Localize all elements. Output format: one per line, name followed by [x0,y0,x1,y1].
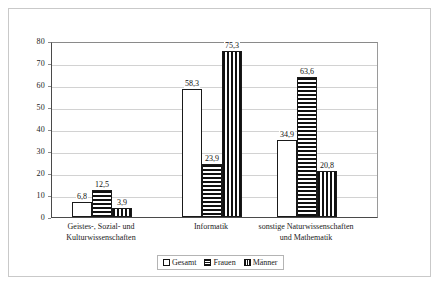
legend-item[interactable]: Männer [244,258,278,267]
category-label-line: Kulturwissenschaften [36,232,166,243]
y-axis-tick-label: 30 [19,148,45,156]
bar-slot: 12,5 [92,43,112,217]
bar[interactable]: 75,3 [222,51,242,217]
y-axis-tick-mark [48,218,51,219]
bar[interactable]: 63,6 [297,77,317,217]
bar-slot: 20,8 [317,43,337,217]
bar-value-label: 20,8 [319,161,335,170]
chart-figure: 01020304050607080 6,812,53,958,323,975,3… [0,0,441,286]
y-axis-tick-label: 50 [19,104,45,112]
bar-group: 34,963,620,8 [277,43,337,217]
bar[interactable]: 12,5 [92,190,112,218]
chart-legend: GesamtFrauenMänner [157,255,284,270]
legend-item-label: Gesamt [172,258,196,267]
y-axis-tick-label: 80 [19,38,45,46]
bar-group: 58,323,975,3 [182,43,242,217]
bar-value-label: 23,9 [204,154,220,163]
bar-value-label: 6,8 [76,192,88,201]
bar-value-label: 34,9 [279,130,295,139]
bar[interactable]: 6,8 [72,202,92,217]
legend-item[interactable]: Frauen [204,258,235,267]
legend-item[interactable]: Gesamt [163,258,196,267]
bar[interactable]: 3,9 [112,208,132,217]
plot-area: 6,812,53,958,323,975,334,963,620,8 [51,42,378,218]
category-label-line: und Mathematik [241,232,371,243]
category-label: sonstige Naturwissenschaftenund Mathemat… [241,221,371,243]
bar[interactable]: 20,8 [317,171,337,217]
bar-group: 6,812,53,9 [72,43,132,217]
bar-value-label: 75,3 [224,41,240,50]
bar-slot: 75,3 [222,43,242,217]
bar[interactable]: 23,9 [202,164,222,217]
y-axis-tick-label: 20 [19,170,45,178]
legend-item-label: Männer [253,258,278,267]
bar-slot: 63,6 [297,43,317,217]
bar-slot: 58,3 [182,43,202,217]
legend-swatch-icon [244,259,251,266]
legend-swatch-icon [163,259,170,266]
bar-value-label: 3,9 [116,198,128,207]
y-axis-tick-label: 60 [19,82,45,90]
bar-value-label: 12,5 [94,180,110,189]
y-axis-tick-label: 10 [19,192,45,200]
legend-swatch-icon [204,259,211,266]
legend-item-label: Frauen [213,258,235,267]
y-axis-tick-label: 40 [19,126,45,134]
bar-slot: 3,9 [112,43,132,217]
bar-slot: 34,9 [277,43,297,217]
bar-slot: 23,9 [202,43,222,217]
bar[interactable]: 58,3 [182,89,202,217]
y-axis-tick-label: 70 [19,60,45,68]
bar-value-label: 58,3 [184,79,200,88]
bar[interactable]: 34,9 [277,140,297,217]
bar-slot: 6,8 [72,43,92,217]
category-label-line: sonstige Naturwissenschaften [241,221,371,232]
bar-value-label: 63,6 [299,67,315,76]
